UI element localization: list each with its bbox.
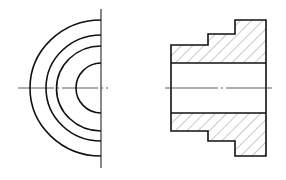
lower-section-hatch xyxy=(171,113,266,156)
upper-section-hatch xyxy=(171,20,266,63)
ring-third xyxy=(56,46,101,131)
section-view xyxy=(165,20,272,156)
technical-drawing xyxy=(0,0,286,180)
half-end-view xyxy=(18,9,108,168)
